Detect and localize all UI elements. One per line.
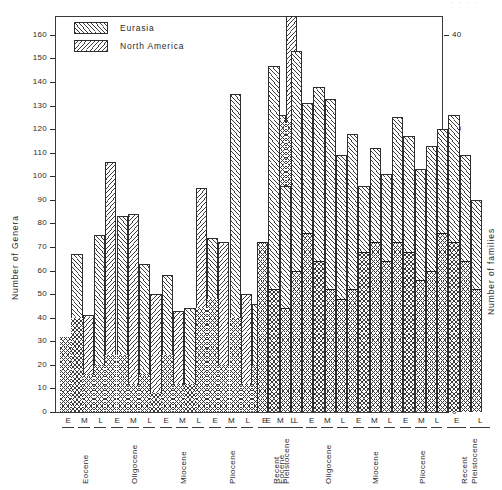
family-region-fill [71, 318, 82, 412]
family-region-fill [325, 289, 336, 412]
chart-legend: Eurasia North America [74, 20, 184, 56]
family-region-fill [437, 233, 448, 412]
family-region-fill [403, 252, 414, 412]
left-period-label-eocene: Eocene [81, 454, 90, 484]
left-tick-label: 10 [17, 383, 47, 392]
stage-underline [274, 427, 286, 428]
stage-underline [290, 427, 302, 428]
left-stage-label-oligocene-m: M [129, 416, 139, 425]
stage-underline [160, 427, 172, 428]
family-region-fill [426, 271, 437, 412]
left-tick-mark [50, 129, 55, 130]
left-tick-label: 90 [17, 195, 47, 204]
right-stage-label-pleistocene-l: L [475, 416, 485, 425]
right-stage-label-miocene-e: E [354, 416, 364, 425]
left-stage-label-oligocene-e: E [112, 416, 122, 425]
left-stage-label-miocene-l: L [194, 416, 204, 425]
family-region-fill [94, 365, 105, 412]
family-region-fill [471, 289, 482, 412]
stage-underline [400, 427, 412, 428]
stage-underline [127, 427, 139, 428]
left-tick-mark [50, 388, 55, 389]
family-region-fill [291, 271, 302, 412]
stage-underline [384, 427, 396, 428]
left-tick-mark [50, 153, 55, 154]
family-region-fill [280, 308, 291, 412]
stage-underline [368, 427, 380, 428]
family-region-fill [173, 384, 184, 412]
stage-underline [78, 427, 90, 428]
left-tick-mark [50, 35, 55, 36]
stage-underline [209, 427, 221, 428]
north-america-swatch-icon [74, 40, 108, 52]
left-stage-label-eocene-l: L [96, 416, 106, 425]
family-region-fill [128, 384, 139, 412]
right-tick-label: 40 [452, 30, 462, 39]
family-region-fill [83, 374, 94, 412]
right-stage-label-eocene-m: M [276, 416, 286, 425]
family-region-fill [207, 299, 218, 412]
left-tick-mark [50, 412, 55, 413]
stage-underline [321, 427, 333, 428]
family-region-fill [268, 289, 279, 412]
left-tick-label: 130 [17, 101, 47, 110]
left-tick-label: 150 [17, 53, 47, 62]
stage-underline [470, 427, 490, 428]
bar-L7 [128, 214, 139, 412]
right-stage-label-pliocene-m: M [417, 416, 427, 425]
stage-underline [259, 427, 271, 428]
left-tick-label: 40 [17, 313, 47, 322]
left-axis-title: Number of Genera [10, 215, 20, 300]
right-stage-label-pliocene-e: E [401, 416, 411, 425]
family-region-fill [139, 374, 150, 412]
left-tick-label: 20 [17, 360, 47, 369]
family-region-fill [336, 299, 347, 412]
left-stage-label-miocene-m: M [178, 416, 188, 425]
left-tick-label: 80 [17, 218, 47, 227]
left-tick-label: 140 [17, 77, 47, 86]
family-region-fill [196, 308, 207, 412]
family-region-fill [60, 337, 71, 412]
right-period-label-pliocene: Pliocene [418, 450, 427, 484]
left-tick-mark [50, 176, 55, 177]
family-region-fill [302, 233, 313, 412]
family-region-fill [184, 384, 195, 412]
left-stage-label-eocene-e: E [63, 416, 73, 425]
family-region-fill [105, 355, 116, 412]
right-period-label-miocene: Miocene [371, 451, 380, 484]
right-stage-label-eocene-l: L [291, 416, 301, 425]
family-region-fill [218, 365, 229, 412]
stage-underline [94, 427, 106, 428]
legend-label-north-america: North America [120, 41, 184, 51]
family-region-fill [448, 242, 459, 412]
family-region-fill [162, 355, 173, 412]
stage-underline [415, 427, 427, 428]
left-tick-label: 110 [17, 148, 47, 157]
left-tick-mark [50, 341, 55, 342]
left-tick-mark [50, 200, 55, 201]
left-tick-mark [50, 247, 55, 248]
family-region-fill [257, 242, 268, 412]
legend-item-north-america: North America [74, 38, 184, 53]
left-tick-label: 120 [17, 124, 47, 133]
right-stage-label-pleistocene-e: E [452, 416, 462, 425]
plot-baseline [55, 412, 445, 413]
right-stage-label-oligocene-l: L [338, 416, 348, 425]
top-partial-note: · · · · [451, 0, 480, 6]
right-tick-mark [444, 412, 449, 413]
left-period-label-oligocene: Oligocene [130, 444, 139, 484]
left-tick-label: 160 [17, 30, 47, 39]
left-tick-mark [50, 318, 55, 319]
left-tick-mark [50, 271, 55, 272]
stage-underline [241, 427, 253, 428]
family-region-fill [381, 261, 392, 412]
left-tick-mark [50, 223, 55, 224]
family-region-fill [241, 384, 252, 412]
left-stage-label-pliocene-l: L [243, 416, 253, 425]
stage-underline [192, 427, 204, 428]
stage-underline [176, 427, 188, 428]
right-stage-label-oligocene-m: M [323, 416, 333, 425]
right-axis-title: Number of families [486, 228, 496, 315]
period-label-line: Recent [460, 438, 470, 484]
left-tick-label: 100 [17, 171, 47, 180]
